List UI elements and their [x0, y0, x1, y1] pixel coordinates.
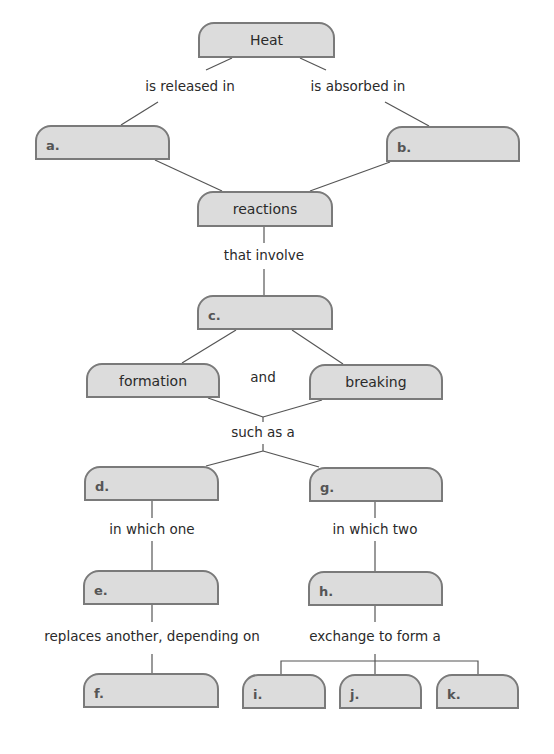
node-a-label: a. [46, 138, 60, 153]
node-e-label: e. [94, 583, 108, 598]
link-in-which-one: in which one [107, 521, 196, 537]
link-and: and [248, 369, 277, 385]
node-i-blank[interactable]: i. [242, 674, 326, 709]
node-g-label: g. [320, 480, 334, 495]
link-in-which-two: in which two [331, 521, 420, 537]
node-formation-label: formation [119, 373, 187, 389]
link-that-involve: that involve [222, 247, 306, 263]
link-such-as-a: such as a [229, 424, 297, 440]
node-b-blank[interactable]: b. [386, 126, 520, 162]
node-h-label: h. [319, 584, 333, 599]
node-d-blank[interactable]: d. [84, 466, 219, 501]
node-k-label: k. [447, 687, 461, 702]
concept-map: Heat a. b. reactions c. formation breaki… [0, 0, 554, 754]
node-b-label: b. [397, 140, 411, 155]
node-k-blank[interactable]: k. [436, 674, 519, 709]
link-is-absorbed-in: is absorbed in [309, 78, 408, 94]
node-heat-label: Heat [250, 32, 283, 48]
node-g-blank[interactable]: g. [309, 467, 443, 502]
node-c-blank[interactable]: c. [197, 295, 333, 330]
node-breaking-label: breaking [345, 374, 406, 390]
link-exchange-to-form: exchange to form a [307, 628, 443, 644]
node-e-blank[interactable]: e. [83, 570, 219, 605]
link-replaces-another: replaces another, depending on [42, 628, 261, 644]
node-f-blank[interactable]: f. [83, 673, 219, 708]
node-j-label: j. [350, 687, 359, 702]
node-a-blank[interactable]: a. [35, 125, 170, 160]
node-breaking: breaking [309, 364, 443, 400]
node-i-label: i. [253, 687, 262, 702]
node-f-label: f. [94, 686, 104, 701]
node-reactions: reactions [197, 191, 333, 227]
node-j-blank[interactable]: j. [339, 674, 422, 709]
node-c-label: c. [208, 308, 221, 323]
node-formation: formation [86, 363, 220, 398]
node-reactions-label: reactions [233, 201, 297, 217]
node-heat: Heat [198, 22, 335, 58]
node-d-label: d. [95, 479, 109, 494]
link-is-released-in: is released in [143, 78, 236, 94]
node-h-blank[interactable]: h. [308, 571, 443, 606]
